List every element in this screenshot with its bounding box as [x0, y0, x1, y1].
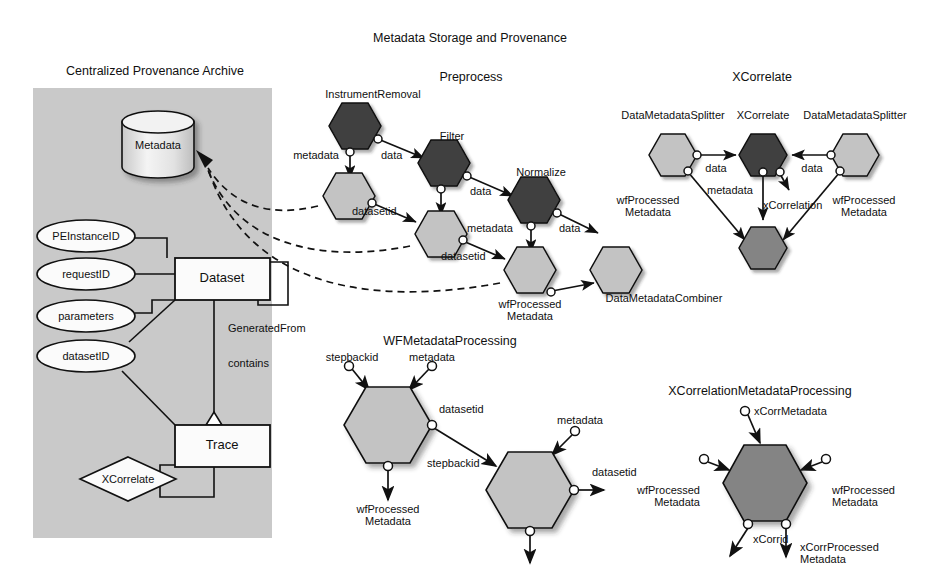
- entity-label-dataset: Dataset: [200, 272, 245, 284]
- node-title-splitter-right: DataMetadataSplitter: [803, 108, 906, 122]
- port-label-xc-data-left: data: [705, 162, 726, 174]
- port-label-data-3: data: [559, 222, 580, 234]
- port-label-wf-datasetid-out: datasetid: [592, 466, 637, 478]
- port-label-data-1: data: [381, 149, 402, 161]
- port-label-data-2: data: [470, 185, 491, 197]
- node-title-splitter-left: DataMetadataSplitter: [621, 108, 724, 122]
- node-title-pp-wfprocessed: wfProcessedMetadata: [499, 298, 562, 322]
- hex-xcorrproc: [723, 445, 807, 521]
- relationship-label-xcorrelate: XCorrelate: [102, 473, 155, 485]
- datastore-label: Metadata: [135, 139, 181, 151]
- port-label-wf-metadata-in-2: metadata: [557, 414, 603, 426]
- diagram-canvas: Metadata Storage and Provenance Centrali…: [0, 0, 943, 579]
- port-label-xcorr-xcorrprocessed: xCorrProcessedMetadata: [800, 541, 879, 565]
- hex-xc-combiner: [739, 227, 787, 269]
- node-title-instrumentremoval: InstrumentRemoval: [325, 88, 420, 100]
- port-label-xc-data-right: data: [801, 162, 822, 174]
- port-label-xc-metadata: metadata: [707, 184, 753, 196]
- port-label-xcorr-wfprocessed-right: wfProcessedMetadata: [832, 484, 895, 508]
- edge-label-generatedfrom: GeneratedFrom: [228, 322, 306, 334]
- port-label-datasetid-1: datasetid: [352, 205, 397, 217]
- entity-label-trace: Trace: [206, 439, 239, 451]
- port-label-wf-stepbackid-2: stepbackid: [427, 457, 480, 469]
- edge-label-contains: contains: [228, 357, 269, 369]
- section-title-xcorrelate: XCorrelate: [732, 70, 792, 84]
- port-label-xcorr-xcorrid: xCorrid: [753, 533, 788, 545]
- port-label-xcorr-xcorrmetadata: xCorrMetadata: [754, 405, 827, 417]
- attr-label-parameters: parameters: [58, 310, 114, 322]
- attr-label-datasetid: datasetID: [62, 350, 109, 362]
- port-label-wf-wfprocessed-out: wfProcessedMetadata: [357, 503, 420, 527]
- hex-filter: [418, 140, 470, 186]
- section-title-wfmetadataprocessing: WFMetadataProcessing: [383, 334, 516, 348]
- section-title-preprocess: Preprocess: [439, 70, 502, 84]
- port-label-xcorr-wfprocessed-left: wfProcessedMetadata: [637, 484, 700, 508]
- port-label-xc-wfprocessed-right: wfProcessedMetadata: [833, 194, 896, 218]
- port-label-wf-datasetid-1: datasetid: [439, 403, 484, 415]
- port-label-metadata-1: metadata: [293, 149, 339, 161]
- port-label-datasetid-2: datasetid: [441, 250, 486, 262]
- node-title-filter: Filter: [440, 130, 464, 142]
- hex-pp-wfprocessed: [504, 247, 556, 293]
- attr-label-peinstanceid: PEInstanceID: [52, 230, 119, 242]
- port-label-xc-xcorrelation: xCorrelation: [763, 199, 822, 211]
- section-title-archive: Centralized Provenance Archive: [66, 64, 244, 78]
- page-title: Metadata Storage and Provenance: [373, 31, 567, 45]
- hex-datametadatacombiner: [590, 247, 642, 293]
- port-label-wf-stepbackid-in: stepbackid: [326, 351, 379, 363]
- port-label-wf-metadata-in: metadata: [409, 351, 455, 363]
- hex-normalize: [508, 177, 560, 223]
- hex-wf-left: [344, 387, 432, 463]
- diagram-vector-layer: [0, 0, 943, 579]
- hex-instrumentremoval: [329, 103, 381, 149]
- port-label-metadata-2: metadata: [467, 222, 513, 234]
- node-title-xcorrelate-node: XCorrelate: [737, 108, 790, 122]
- port-label-xc-wfprocessed-left: wfProcessedMetadata: [617, 194, 680, 218]
- preprocess-nodes: [323, 103, 642, 293]
- node-title-datametadatacombiner: DataMetadataCombiner: [606, 292, 723, 304]
- node-title-normalize: Normalize: [516, 166, 566, 178]
- hex-wf-right: [486, 452, 574, 528]
- section-title-xcorrmetadataprocessing: XCorrelationMetadataProcessing: [668, 384, 851, 398]
- attr-label-requestid: requestID: [62, 268, 110, 280]
